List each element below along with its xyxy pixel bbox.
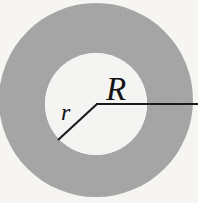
outer-radius-label: R	[105, 71, 126, 107]
annulus-diagram-svg: R r	[0, 0, 198, 203]
annulus-figure: R r	[0, 0, 198, 203]
inner-radius-label: r	[61, 99, 71, 125]
